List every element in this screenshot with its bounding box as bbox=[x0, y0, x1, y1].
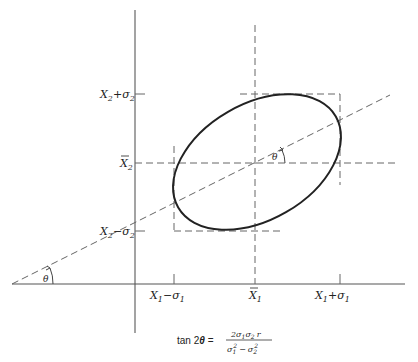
label-x1-minus-sigma1: X1−σ1 bbox=[149, 289, 185, 304]
theta-arc-origin-icon bbox=[50, 268, 53, 284]
svg-text:X2+σ2: X2+σ2 bbox=[99, 88, 135, 103]
label-x2-plus-sigma2: X2+σ2 bbox=[99, 88, 135, 103]
svg-text:X1+σ1: X1+σ1 bbox=[314, 289, 350, 304]
label-x2-minus-sigma2: X2−σ2 bbox=[99, 225, 135, 240]
svg-text:X2−σ2: X2−σ2 bbox=[99, 225, 135, 240]
svg-text:tan 2θ=: tan 2θ= bbox=[177, 335, 214, 346]
svg-text:X1−σ1: X1−σ1 bbox=[149, 289, 185, 304]
formula-tan-2theta: tan 2θ= 2σ1σ2r σ12−σ22 bbox=[177, 330, 272, 355]
correlation-ellipse-diagram: θ θ X2+σ2 X2 X2−σ2 X1−σ1 X1 X1+σ1 tan 2θ… bbox=[0, 0, 418, 362]
label-x2-bar: X2 bbox=[119, 156, 133, 172]
svg-text:X2: X2 bbox=[119, 157, 133, 172]
principal-axis-dashed-line bbox=[12, 95, 390, 284]
theta-arc-center-icon bbox=[282, 150, 285, 163]
svg-text:2σ1σ2r: 2σ1σ2r bbox=[230, 330, 262, 340]
label-x1-plus-sigma1: X1+σ1 bbox=[314, 289, 350, 304]
theta-label-origin: θ bbox=[43, 274, 49, 284]
label-x1-bar: X1 bbox=[248, 288, 262, 304]
svg-text:σ12−σ22: σ12−σ22 bbox=[227, 342, 258, 355]
correlation-ellipse bbox=[149, 66, 365, 257]
svg-text:X1: X1 bbox=[248, 289, 262, 304]
theta-label-center: θ bbox=[272, 152, 278, 162]
